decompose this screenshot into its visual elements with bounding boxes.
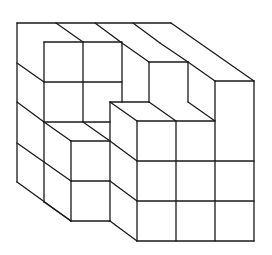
- cube-edge: [171, 23, 254, 81]
- isometric-cubes-drawing: [0, 0, 272, 255]
- cube-edge: [110, 181, 137, 201]
- cube-edge: [110, 141, 137, 161]
- cube-edge: [95, 23, 122, 43]
- cube-edge: [17, 63, 44, 82]
- cube-edge: [17, 143, 44, 162]
- cube-structure-figure: Stack of unit cubes drawn in oblique pro…: [0, 0, 272, 255]
- cube-edge: [122, 43, 149, 62]
- cube-edge: [133, 23, 160, 43]
- cube-edge: [83, 122, 110, 141]
- cube-edge: [110, 221, 137, 241]
- cube-edge: [188, 62, 215, 81]
- cube-edge: [44, 122, 71, 141]
- cube-edge: [17, 102, 44, 122]
- cube-edge: [149, 102, 176, 121]
- cube-edge: [188, 102, 215, 121]
- cube-edge: [56, 23, 83, 42]
- cube-edge: [44, 162, 71, 181]
- cube-edge: [110, 102, 137, 121]
- cube-edge: [44, 202, 71, 221]
- cube-edge: [160, 43, 188, 62]
